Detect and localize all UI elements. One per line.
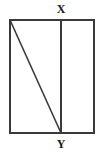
vertex-label-x: X <box>53 3 69 15</box>
geometry-figure: X Y <box>0 0 103 156</box>
figure-canvas <box>0 0 103 156</box>
vertex-label-y: Y <box>53 138 69 150</box>
outer-rectangle <box>10 20 94 133</box>
